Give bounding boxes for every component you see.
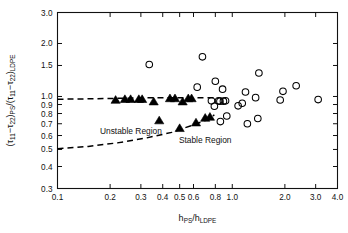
annotation-unstable-region: Unstable Region [100, 126, 162, 136]
x-label-sub-ps: PS [184, 217, 193, 224]
y-label-sub-ps: PS [9, 106, 16, 115]
plot-frame [58, 13, 338, 189]
x-tick-label: 0.5 [174, 193, 186, 202]
x-tick-label: 0.8 [210, 193, 222, 202]
y-tick-label: 1.0 [41, 92, 53, 101]
y-axis-label: (τ11−τ22)PS/(τ11−τ22)LDPE [5, 54, 16, 146]
x-tick-label: 1.0 [227, 193, 239, 202]
x-tick-label: 0.6 [188, 193, 200, 202]
y-tick-label: 0.6 [41, 132, 53, 141]
y-tick-label: 0.8 [41, 110, 53, 119]
x-tick-label: 0.4 [157, 193, 169, 202]
y-tick-label: 0.5 [41, 145, 53, 154]
y-tick-label: 3.0 [41, 9, 53, 18]
y-tick-label: 0.7 [41, 120, 53, 129]
y-tick-label: 0.4 [41, 163, 53, 172]
y-tick-label: 2.0 [41, 39, 53, 48]
chart-figure: 0.10.20.30.40.50.60.81.02.03.04.00.30.40… [0, 0, 348, 233]
x-label-sub-ldpe: LDPE [200, 217, 217, 224]
y-label-sub-ldpe: LDPE [9, 54, 16, 71]
x-axis-label: hPS/hLDPE [179, 213, 217, 224]
x-tick-label: 3.0 [310, 193, 322, 202]
scatter-plot-svg: 0.10.20.30.40.50.60.81.02.03.04.00.30.40… [0, 0, 348, 233]
y-tick-label: 1.5 [41, 61, 53, 70]
x-tick-label: 2.0 [279, 193, 291, 202]
y-tick-label: 0.9 [41, 101, 53, 110]
y-tick-label: 0.3 [41, 185, 53, 194]
x-tick-label: 0.2 [104, 193, 116, 202]
x-tick-label: 0.3 [135, 193, 147, 202]
x-tick-label: 4.0 [332, 193, 344, 202]
annotation-stable-region: Stable Region [179, 135, 232, 145]
x-tick-label: 0.1 [52, 193, 64, 202]
